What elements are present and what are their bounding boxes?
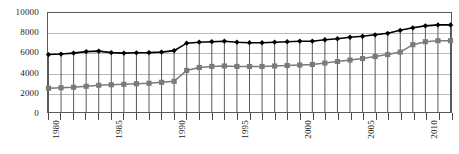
series-layer [48,13,451,112]
data-point [146,81,151,86]
data-point [259,64,264,69]
x-axis-tick [338,113,339,120]
data-point [84,84,89,89]
x-axis-tick [401,113,402,120]
x-axis-tick [98,113,99,120]
data-point [71,85,76,90]
data-point [285,63,290,68]
data-point [209,64,214,69]
data-point [398,50,403,55]
data-point [71,50,76,55]
x-axis-tick-label: 1980 [52,120,61,139]
x-axis-tick [48,113,49,120]
x-axis-tick-label: 2010 [430,120,439,139]
data-point [58,85,63,90]
data-point [435,22,440,27]
data-point [310,62,315,67]
data-point [83,49,88,54]
data-point [259,40,264,45]
plot-area [47,12,452,113]
y-axis-tick-label: 6000 [20,48,39,57]
y-axis-tick-label: 8000 [20,28,39,37]
data-point [134,81,139,86]
data-point [222,63,227,68]
data-point [297,62,302,67]
x-axis-tick [363,113,364,120]
data-point [410,42,415,47]
x-axis-tick [439,113,440,120]
data-point [159,80,164,85]
data-point [360,56,365,61]
x-axis-tick [73,113,74,120]
x-axis-tick [262,113,263,120]
data-point [109,50,114,55]
data-point [146,50,151,55]
data-point [46,86,51,91]
data-point [197,40,202,45]
x-axis-tick [174,113,175,120]
y-axis-tick-label: 0 [34,109,39,118]
data-point [285,39,290,44]
x-axis-tick [351,113,352,120]
data-point [96,83,101,88]
data-point [423,39,428,44]
data-point [134,50,139,55]
x-axis-tick [275,113,276,120]
x-axis-tick [111,113,112,120]
data-point [372,32,377,37]
x-axis-tick [414,113,415,120]
data-point [247,64,252,69]
x-axis-tick-label: 2000 [304,120,313,139]
data-point [297,39,302,44]
data-point [347,57,352,62]
data-point [322,60,327,65]
data-point [310,39,315,44]
data-point [347,35,352,40]
x-axis-tick [85,113,86,120]
x-axis-tick-label: 1990 [178,120,187,139]
x-axis-tick-label: 1985 [115,120,124,139]
data-point [172,79,177,84]
data-point [209,39,214,44]
data-point [121,82,126,87]
y-axis-tick-label: 4000 [20,68,39,77]
data-point [410,25,415,30]
data-point [159,49,164,54]
data-point [360,34,365,39]
data-point [398,28,403,33]
data-point [435,38,440,43]
x-axis-tick [149,113,150,120]
data-point [46,52,51,57]
data-point [184,68,189,73]
y-axis-tick-label: 2000 [20,88,39,97]
data-point [448,22,453,27]
data-point [247,40,252,45]
data-point [109,82,114,87]
chart-container: 0200040006000800010000 19801985199019952… [0,0,459,154]
x-axis-tick [300,113,301,120]
x-axis-tick [136,113,137,120]
x-axis-tick [388,113,389,120]
x-axis-tick [161,113,162,120]
data-point [385,31,390,36]
y-axis-labels: 0200040006000800010000 [0,0,44,113]
x-axis-tick [237,113,238,120]
data-point [448,38,453,43]
x-axis-tick [325,113,326,120]
data-point [335,59,340,64]
y-axis-tick-label: 10000 [16,8,40,17]
data-point [234,40,239,45]
data-point [121,50,126,55]
x-axis-labels: 1980198519901995200020052010 [47,120,452,154]
data-point [96,48,101,53]
x-axis-tick [224,113,225,120]
data-point [322,37,327,42]
data-point [335,36,340,41]
data-point [234,64,239,69]
data-point [272,63,277,68]
x-axis-tick [426,113,427,120]
x-axis-tick [452,113,453,120]
data-point [423,23,428,28]
data-point [197,65,202,70]
x-axis-tick [199,113,200,120]
